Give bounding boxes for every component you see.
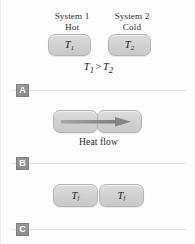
separator-tag-a: A	[16, 84, 29, 97]
separator-tag-b: B	[16, 157, 29, 170]
system1-temperature-label: T1	[65, 39, 74, 50]
system1-box: T1	[48, 34, 91, 56]
system1-name: System 1	[42, 11, 102, 22]
separator-line-a	[11, 90, 187, 91]
heat-flow-caption: Heat flow	[1, 137, 195, 148]
panel-b-box-right	[97, 110, 142, 133]
panel-c-box-left: Tf	[53, 184, 98, 207]
separator-line-b	[11, 163, 187, 164]
final-temperature-label-right: Tf	[118, 190, 126, 201]
system2-name: System 2	[102, 11, 162, 22]
system2-temperature-label: T2	[125, 39, 134, 50]
heat-flow-figure: System 1 Hot System 2 Cold T1 T2 T1>T2 A	[0, 0, 195, 244]
temperature-inequality: T1>T2	[1, 61, 195, 75]
separator-tag-c: C	[16, 223, 29, 236]
panel-b-box-left	[53, 110, 98, 133]
system2-state: Cold	[102, 22, 162, 33]
system1-state: Hot	[42, 22, 102, 33]
final-temperature-label-left: Tf	[72, 190, 80, 201]
separator-line-c	[11, 229, 187, 230]
system2-box: T2	[108, 34, 151, 56]
panel-c-box-right: Tf	[99, 184, 144, 207]
